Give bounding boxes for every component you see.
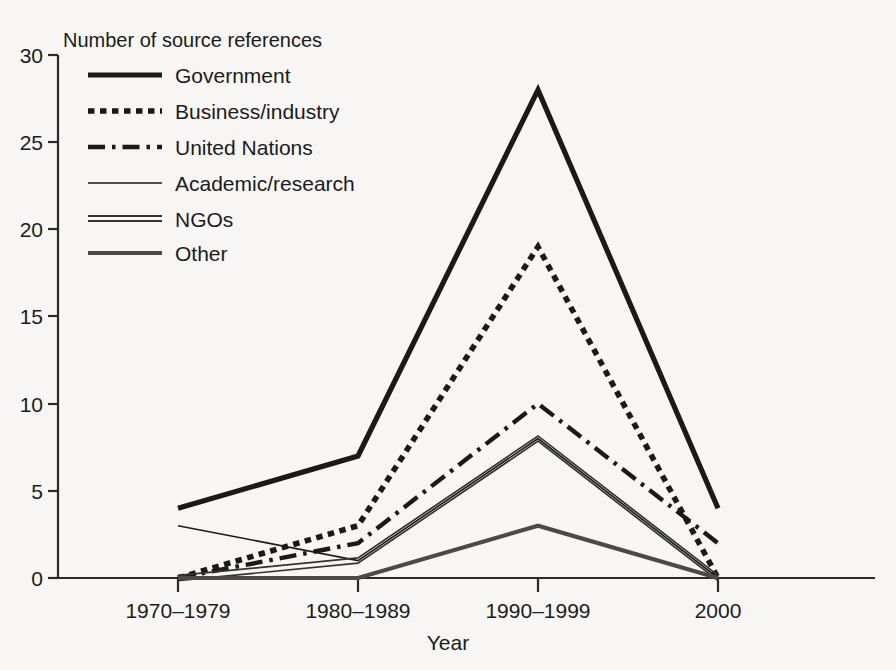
series-line-academic-research xyxy=(178,439,718,578)
series-path xyxy=(178,439,718,578)
series-line-ngos xyxy=(178,436,718,581)
y-tick-label: 5 xyxy=(31,480,43,503)
x-tick-label: 1970–1979 xyxy=(125,599,230,622)
x-tick-labels: 1970–1979 1980–1989 1990–1999 2000 xyxy=(125,599,741,622)
y-tick-labels: 30 25 20 15 10 5 0 xyxy=(20,44,43,590)
chart-legend: Government Business/industry United Nati… xyxy=(88,64,355,265)
legend-item-academic-research: Academic/research xyxy=(88,172,355,195)
series-line-business-industry xyxy=(178,247,718,578)
series-layer xyxy=(178,90,718,581)
legend-label: Business/industry xyxy=(175,100,340,123)
x-tick-label: 2000 xyxy=(695,599,742,622)
y-axis-title: Number of source references xyxy=(63,29,322,51)
legend-item-ngos: NGOs xyxy=(88,208,233,231)
legend-item-other: Other xyxy=(88,242,228,265)
legend-label: Other xyxy=(175,242,228,265)
y-tick-marks xyxy=(48,55,58,578)
series-path xyxy=(178,441,718,580)
chart-canvas: Number of source references 30 25 20 15 … xyxy=(0,0,896,670)
legend-label: NGOs xyxy=(175,208,233,231)
y-tick-label: 15 xyxy=(20,305,43,328)
legend-label: Academic/research xyxy=(175,172,355,195)
legend-item-government: Government xyxy=(88,64,291,87)
legend-label: Government xyxy=(175,64,291,87)
y-tick-label: 0 xyxy=(31,567,43,590)
legend-item-business-industry: Business/industry xyxy=(88,100,340,123)
y-tick-label: 30 xyxy=(20,44,43,67)
y-tick-label: 20 xyxy=(20,218,43,241)
y-tick-label: 25 xyxy=(20,131,43,154)
line-chart: Number of source references 30 25 20 15 … xyxy=(0,0,896,670)
legend-label: United Nations xyxy=(175,136,313,159)
y-tick-label: 10 xyxy=(20,393,43,416)
legend-item-united-nations: United Nations xyxy=(88,136,313,159)
x-tick-label: 1980–1989 xyxy=(305,599,410,622)
series-path xyxy=(178,247,718,578)
x-tick-label: 1990–1999 xyxy=(485,599,590,622)
x-axis-title: Year xyxy=(427,631,469,654)
